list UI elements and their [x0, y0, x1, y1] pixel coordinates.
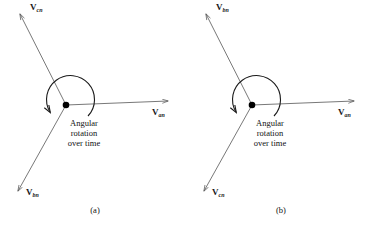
rotation-note-line2: rotation	[234, 128, 306, 138]
rotation-note-line3: over time	[234, 138, 306, 148]
panel-caption-a: (a)	[75, 205, 115, 215]
rotation-arc	[47, 76, 95, 116]
rotation-note: Angular rotation over time	[48, 118, 120, 148]
rotation-note-line3: over time	[48, 138, 120, 148]
vector-label-van: Van	[152, 108, 165, 117]
vector-label-vbn: Vbn	[216, 3, 229, 12]
rotation-note-line1: Angular	[48, 118, 120, 128]
vector-label-vbn: Vbn	[26, 188, 39, 197]
origin-dot	[249, 102, 256, 109]
rotation-arc	[233, 76, 281, 116]
rotation-note: Angular rotation over time	[234, 118, 306, 148]
vector-van-line	[252, 101, 354, 105]
vector-vcn-line	[20, 14, 66, 105]
panel-caption-b: (b)	[261, 205, 301, 215]
rotation-note-line1: Angular	[234, 118, 306, 128]
panel-a: Vcn Van Vbn Angular rotation over time (…	[0, 0, 186, 230]
vector-van-line	[66, 101, 168, 105]
vector-label-van: Van	[338, 108, 351, 117]
vector-label-vcn: Vcn	[30, 3, 43, 12]
panel-b: Vbn Van Vcn Angular rotation over time (…	[186, 0, 372, 230]
vector-label-vcn: Vcn	[212, 188, 225, 197]
vector-vbn-line	[206, 14, 252, 105]
rotation-note-line2: rotation	[48, 128, 120, 138]
origin-dot	[63, 102, 70, 109]
phasor-figure: Vcn Van Vbn Angular rotation over time (…	[0, 0, 372, 230]
